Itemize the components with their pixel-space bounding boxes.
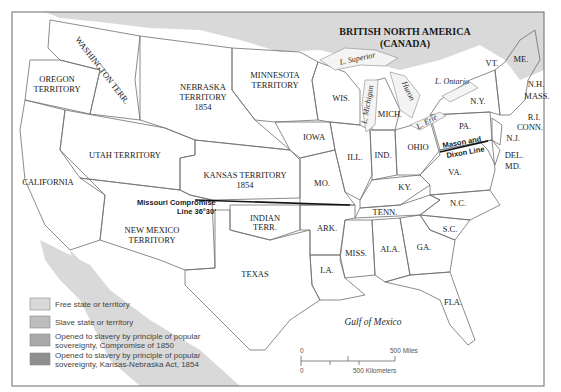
mo-label: MO. bbox=[314, 178, 330, 188]
iowa-label: IOWA bbox=[303, 132, 326, 142]
md-label: MD. bbox=[505, 161, 521, 171]
ill-label: ILL. bbox=[347, 152, 362, 162]
scale-km-zero: 0 bbox=[300, 367, 304, 374]
new-mexico-label-1: NEW MEXICO bbox=[125, 225, 180, 235]
scale-km-label: 500 Kilometers bbox=[353, 367, 397, 374]
california-label: CALIFORNIA bbox=[22, 177, 74, 187]
la-label: LA. bbox=[320, 265, 333, 275]
ri-label: R.I. bbox=[528, 112, 541, 122]
sc-label: S.C. bbox=[443, 224, 458, 234]
vt-label: VT. bbox=[486, 58, 499, 68]
kansas-label-1: KANSAS TERRITORY bbox=[203, 170, 286, 180]
conn-label: CONN. bbox=[517, 122, 543, 132]
ga-label: GA. bbox=[417, 242, 431, 252]
ny-label: N.Y. bbox=[470, 96, 485, 106]
legend-label-kansas-nebraska-line2: sovereignty, Kansas-Nebraska Act, 1854 bbox=[55, 360, 199, 369]
scale-miles-zero: 0 bbox=[300, 347, 304, 354]
tenn-label: TENN. bbox=[373, 207, 398, 217]
nebraska-label-3: 1854 bbox=[195, 102, 213, 112]
pa-label: PA. bbox=[459, 121, 471, 131]
fla-label: FLA. bbox=[444, 297, 462, 307]
va-label: VA. bbox=[448, 167, 461, 177]
new-mexico-label-2: TERRITORY bbox=[128, 235, 175, 245]
del-label: DEL. bbox=[505, 150, 524, 160]
missouri-compromise-label-1: Missouri Compromise bbox=[137, 198, 216, 207]
legend-swatch-slave bbox=[30, 316, 50, 328]
legend-swatch-kansas-nebraska bbox=[30, 353, 50, 365]
nebraska-label-1: NEBRASKA bbox=[180, 82, 227, 92]
legend-label-compromise-1850-line1: Opened to slavery by principle of popula… bbox=[55, 332, 201, 341]
oregon-label-2: TERRITORY bbox=[33, 84, 80, 94]
scale-miles-label: 500 Miles bbox=[390, 347, 419, 354]
minnesota-label-1: MINNESOTA bbox=[250, 70, 300, 80]
me-label: ME. bbox=[514, 54, 529, 64]
indian-label-2: TERR. bbox=[253, 222, 277, 232]
legend-label-compromise-1850-line2: sovereignty, Compromise of 1850 bbox=[55, 341, 175, 350]
oregon-label-1: OREGON bbox=[39, 74, 74, 84]
utah-label: UTAH TERRITORY bbox=[89, 150, 161, 160]
legend-swatch-free bbox=[30, 298, 50, 310]
mass-label: MASS. bbox=[524, 91, 549, 101]
nj-label: N.J. bbox=[506, 133, 520, 143]
nc-label: N.C. bbox=[450, 198, 466, 208]
legend-label-kansas-nebraska-line1: Opened to slavery by principle of popula… bbox=[55, 351, 201, 360]
kansas-label-2: 1854 bbox=[237, 180, 255, 190]
nebraska-label-2: TERRITORY bbox=[179, 92, 226, 102]
gulf-of-mexico-label: Gulf of Mexico bbox=[345, 317, 402, 327]
nh-label: N.H. bbox=[528, 79, 545, 89]
canada-label: BRITISH NORTH AMERICA bbox=[339, 26, 471, 37]
ohio-label: OHIO bbox=[407, 142, 428, 152]
ind-label: IND. bbox=[374, 150, 391, 160]
ark-label: ARK. bbox=[317, 223, 337, 233]
legend-label-slave: Slave state or territory bbox=[55, 318, 133, 327]
ky-label: KY. bbox=[398, 182, 411, 192]
missouri-compromise-label-2: Line 36°30′ bbox=[177, 207, 216, 216]
legend-swatch-compromise-1850 bbox=[30, 334, 50, 346]
mich-label: MICH. bbox=[378, 109, 402, 119]
miss-label: MISS. bbox=[345, 248, 367, 258]
texas-label: TEXAS bbox=[241, 269, 269, 279]
historical-map: BRITISH NORTH AMERICA (CANADA) WASHINGTO… bbox=[0, 0, 561, 392]
legend-label-free: Free state or territory bbox=[55, 300, 130, 309]
lake-ontario-label: L. Ontario bbox=[434, 77, 469, 86]
wis-label: WIS. bbox=[332, 93, 350, 103]
minnesota-label-2: TERRITORY bbox=[251, 80, 298, 90]
canada-sublabel: (CANADA) bbox=[380, 38, 430, 50]
ala-label: ALA. bbox=[380, 244, 400, 254]
